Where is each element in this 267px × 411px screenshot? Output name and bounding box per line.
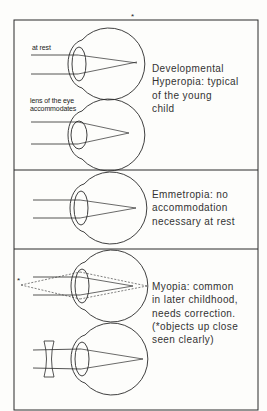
- eye-hyperopia-at-rest: [31, 28, 145, 100]
- concave-lens: [44, 341, 54, 377]
- caption-line: Hyperopia: typical: [152, 75, 239, 88]
- label-line-1: lens of the eye: [30, 97, 76, 105]
- caption-line: needs correction.: [152, 307, 238, 320]
- label-line-2: accommodates: [30, 105, 76, 113]
- caption-line: (*objects up close: [152, 320, 238, 333]
- label-at-rest: at rest: [32, 44, 51, 52]
- caption-line: accommodation: [152, 201, 235, 214]
- near-object-marker: *: [17, 277, 20, 285]
- eye-myopia: [21, 250, 148, 322]
- caption-line: of the young: [152, 89, 239, 102]
- caption-line: necessary at rest: [152, 215, 235, 228]
- caption-line: Emmetropia: no: [152, 188, 235, 201]
- caption-line: child: [152, 102, 239, 115]
- caption-line: Myopia: common: [152, 280, 238, 293]
- top-mark: *: [131, 13, 134, 21]
- eye-myopia-corrected: [33, 323, 148, 395]
- caption-emmetropia: Emmetropia: no accommodation necessary a…: [152, 188, 235, 228]
- caption-line: in later childhood,: [152, 293, 238, 306]
- caption-line: Developmental: [152, 62, 239, 75]
- caption-hyperopia: Developmental Hyperopia: typical of the …: [152, 62, 239, 115]
- caption-myopia: Myopia: common in later childhood, needs…: [152, 280, 238, 346]
- eye-emmetropia: [33, 172, 147, 244]
- label-lens-accommodates: lens of the eye accommodates: [30, 97, 76, 113]
- caption-line: seen clearly): [152, 333, 238, 346]
